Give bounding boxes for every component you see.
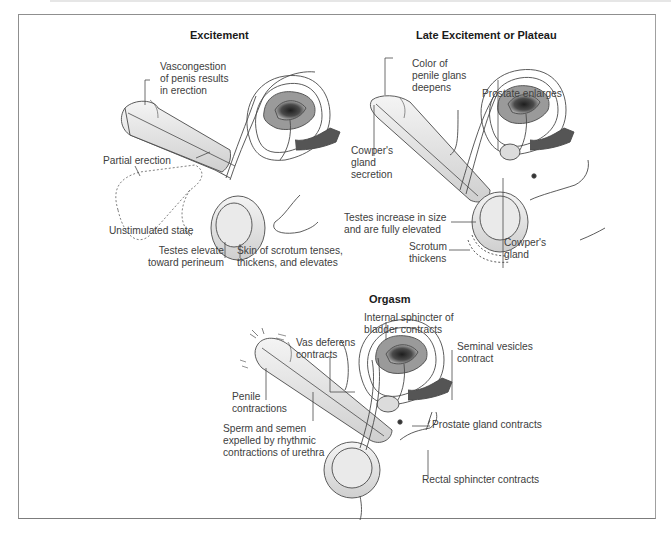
label-skin-of-scrotum: Skin of scrotum tenses, thickens, and el… [237, 245, 343, 269]
label-testes-increase: Testes increase in size and are fully el… [344, 212, 447, 236]
label-vas-deferens: Vas deferens contracts [296, 337, 355, 361]
panel-title-plateau: Late Excitement or Plateau [416, 29, 557, 41]
label-unstimulated-state: Unstimulated state [109, 225, 193, 237]
panel-title-excitement: Excitement [190, 29, 249, 41]
label-partial-erection: Partial erection [103, 155, 171, 167]
label-scrotum-thickens: Scrotum thickens [409, 241, 447, 265]
label-vascongestion: Vascongestion of penis results in erecti… [160, 61, 229, 97]
label-seminal-vesicles: Seminal vesicles contract [457, 341, 533, 365]
label-prostate-contracts: Prostate gland contracts [432, 419, 542, 431]
label-prostate-enlarges: Prostate enlarges [482, 88, 562, 100]
label-rectal-sphincter: Rectal sphincter contracts [422, 474, 539, 486]
label-penile-contractions: Penile contractions [232, 391, 287, 415]
label-internal-sphincter: Internal sphincter of bladder contracts [364, 312, 453, 336]
label-color-glans: Color of penile glans deepens [412, 58, 466, 94]
label-cowpers-gland: Cowper's gland [504, 237, 546, 261]
label-cowpers-secretion: Cowper's gland secretion [351, 145, 393, 181]
label-sperm-semen: Sperm and semen expelled by rhythmic con… [223, 423, 324, 459]
label-testes-elevate: Testes elevate toward perineum [148, 245, 224, 269]
panel-title-orgasm: Orgasm [369, 293, 411, 305]
